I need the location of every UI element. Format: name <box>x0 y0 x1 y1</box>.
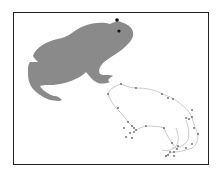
frog-body <box>28 21 133 101</box>
outline-path <box>108 84 198 156</box>
outline-dots <box>107 83 199 157</box>
frog-eye-top <box>115 18 119 22</box>
frog-eye <box>117 29 120 32</box>
frog-diagram <box>0 0 222 175</box>
frog-silhouette <box>28 18 133 101</box>
frog-dot-outline <box>107 83 199 157</box>
